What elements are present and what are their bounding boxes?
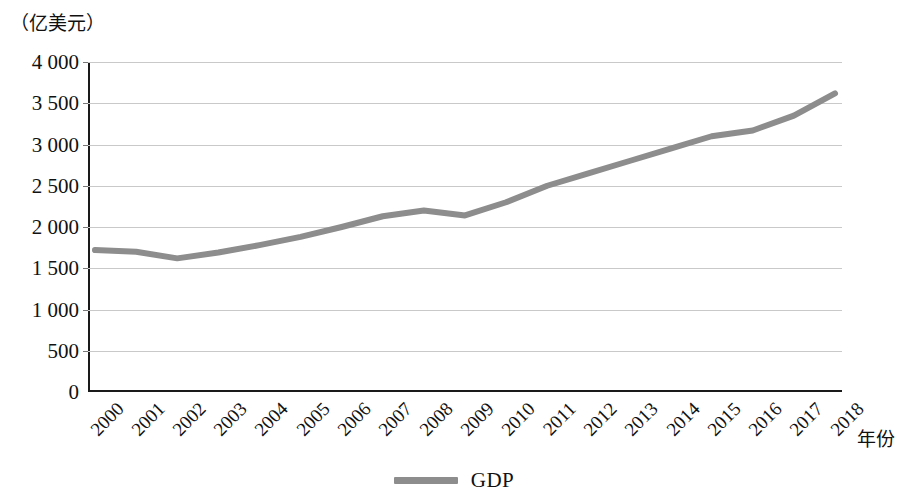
x-tick-label-2002: 2002	[168, 398, 210, 440]
x-tick-label-2004: 2004	[251, 398, 293, 440]
x-tick-label-2015: 2015	[703, 398, 745, 440]
x-tick-label-2008: 2008	[415, 398, 457, 440]
chart-legend: GDP	[0, 468, 908, 493]
x-tick-label-2006: 2006	[333, 398, 375, 440]
y-tick-label-1500: 1 500	[32, 256, 79, 281]
x-tick-label-2000: 2000	[86, 398, 128, 440]
y-tick-label-2000: 2 000	[32, 215, 79, 240]
y-tick-label-1000: 1 000	[32, 297, 79, 322]
x-tick-label-2016: 2016	[744, 398, 786, 440]
plot-area: 05001 0001 5002 0002 5003 0003 5004 000 …	[88, 62, 842, 392]
y-axis-unit-caption: （亿美元）	[10, 8, 105, 35]
x-axis-title: 年份	[857, 424, 895, 451]
y-tick-label-4000: 4 000	[32, 50, 79, 75]
x-tick-label-2011: 2011	[539, 398, 581, 440]
data-series-gdp	[88, 62, 842, 392]
legend-label-gdp: GDP	[471, 468, 515, 493]
x-tick-label-2009: 2009	[456, 398, 498, 440]
x-tick-label-2010: 2010	[497, 398, 539, 440]
y-tick-label-3500: 3 500	[32, 91, 79, 116]
x-tick-label-2013: 2013	[621, 398, 663, 440]
y-tick-label-2500: 2 500	[32, 173, 79, 198]
x-tick-label-2007: 2007	[374, 398, 416, 440]
y-tick-label-3000: 3 000	[32, 132, 79, 157]
y-tick-label-0: 0	[69, 380, 80, 405]
x-tick-label-2005: 2005	[292, 398, 334, 440]
y-tick-label-500: 500	[48, 338, 80, 363]
legend-line-swatch-gdp	[394, 477, 458, 484]
x-tick-label-2001: 2001	[127, 398, 169, 440]
x-tick-label-2017: 2017	[785, 398, 827, 440]
x-tick-label-2012: 2012	[579, 398, 621, 440]
x-tick-label-2014: 2014	[662, 398, 704, 440]
series-line-gdp	[95, 93, 835, 258]
x-tick-label-2003: 2003	[209, 398, 251, 440]
chart-page: （亿美元） 05001 0001 5002 0002 5003 0003 500…	[0, 0, 908, 502]
